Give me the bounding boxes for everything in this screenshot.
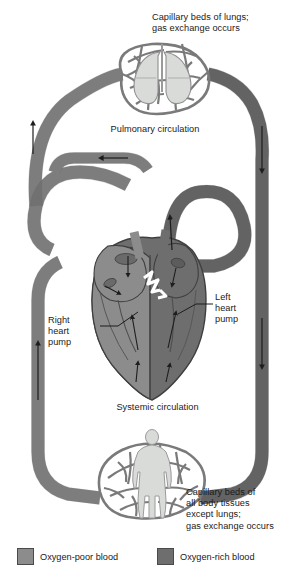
legend-label-oxygen-poor: Oxygen-poor blood	[40, 552, 118, 562]
systemic-arterial-vessel	[200, 198, 262, 498]
pulmonary-vein-vessel	[208, 74, 262, 198]
legend-swatch-oxygen-rich	[157, 548, 174, 565]
legend-label-oxygen-rich: Oxygen-rich blood	[180, 552, 255, 562]
label-lungs-capillary-beds: Capillary beds of lungs; gas exchange oc…	[152, 12, 297, 34]
label-body-capillary-beds: Capillary beds of all body tissues excep…	[186, 487, 300, 532]
legend-item-oxygen-rich: Oxygen-rich blood	[157, 548, 255, 565]
legend-item-oxygen-poor: Oxygen-poor blood	[17, 548, 118, 565]
label-left-heart-pump: Left heart pump	[215, 292, 275, 326]
legend-swatch-oxygen-poor	[17, 548, 34, 565]
label-right-heart-pump: Right heart pump	[48, 315, 100, 349]
label-systemic-circulation: Systemic circulation	[95, 402, 220, 413]
lung-capillary-bed	[120, 44, 209, 114]
circulation-diagram: Capillary beds of lungs; gas exchange oc…	[0, 0, 300, 574]
legend: Oxygen-poor blood Oxygen-rich blood	[0, 546, 300, 570]
heart-icon	[92, 230, 206, 400]
systemic-venous-vessel	[38, 262, 100, 498]
label-pulmonary-circulation: Pulmonary circulation	[90, 124, 220, 135]
human-body-icon	[133, 430, 172, 519]
